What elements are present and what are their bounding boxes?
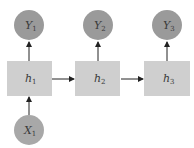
rnn-diagram: Y1 Y2 Y3 h1 h2 h3 X1	[0, 0, 194, 148]
hidden-state-h1: h1	[7, 61, 52, 96]
input-node-x1: X1	[14, 115, 44, 145]
output-node-y2: Y2	[83, 10, 113, 40]
hidden-state-h2: h2	[75, 61, 120, 96]
output-node-y3: Y3	[152, 10, 182, 40]
output-node-y1: Y1	[14, 10, 44, 40]
hidden-state-h3: h3	[144, 61, 190, 96]
